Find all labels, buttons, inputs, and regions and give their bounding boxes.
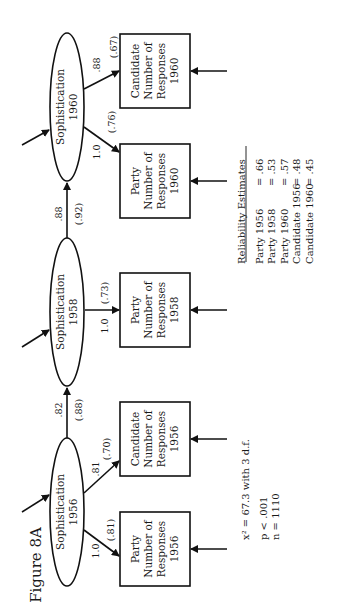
indicator-label-cand-1956: Candidate Number of Responses 1956: [129, 410, 181, 467]
coef-soph1956-soph1958: .82: [53, 402, 64, 417]
p-value-stat: p < .001: [258, 439, 271, 540]
indicator-label-party-1956: Party Number of Responses 1956: [129, 520, 181, 577]
std-soph1960-cand1960: (.67): [108, 36, 119, 59]
std-soph1958-soph1960: (.92): [73, 203, 84, 226]
disturbance-soph1960: [22, 130, 49, 145]
std-soph1956-soph1958: (.88): [73, 399, 84, 422]
coef-soph1960-party1960: 1.0: [91, 144, 102, 159]
reliability-row: Candidate 1960 = .45: [304, 159, 317, 264]
arrow-soph1960-to-cand1960: [84, 71, 119, 89]
std-soph1956-cand1956: (.70): [101, 438, 112, 461]
figure-title: Figure 8A: [27, 527, 45, 603]
disturbance-soph1958: [22, 330, 49, 347]
latent-label-1956: Sophistication 1956: [54, 474, 80, 550]
coef-soph1956-party1956: 1.0: [90, 543, 101, 558]
chi-square-stat: x² = 67.3 with 3 d.f.: [240, 439, 253, 540]
std-soph1956-party1956: (.81): [105, 519, 116, 542]
reliability-heading: Reliability Estimates: [236, 159, 249, 264]
reliability-row: Party 1960 = .57: [279, 159, 292, 264]
reliability-row: Party 1958 = .53: [266, 159, 279, 264]
latent-label-1960: Sophistication 1960: [54, 69, 80, 145]
std-soph1960-party1960: (.76): [106, 111, 117, 134]
disturbance-soph1956: [22, 495, 49, 512]
coef-soph1958-soph1960: .88: [53, 206, 64, 221]
reliability-estimates: Reliability Estimates Party 1956 = .66 P…: [236, 159, 316, 264]
indicator-label-cand-1960: Candidate Number of Responses 1960: [129, 42, 181, 99]
indicator-label-party-1960: Party Number of Responses 1960: [129, 152, 181, 209]
latent-label-1958: Sophistication 1958: [54, 274, 80, 350]
n-stat: n = 1110: [270, 439, 283, 540]
std-soph1958-party1958: (.73): [99, 282, 110, 305]
coef-soph1960-cand1960: .88: [91, 57, 102, 72]
indicator-label-party-1958: Party Number of Responses 1958: [129, 281, 181, 338]
coef-soph1956-cand1956: .81: [90, 461, 101, 476]
reliability-row: Candidate 1956 = .48: [291, 159, 304, 264]
coef-soph1958-party1958: 1.0: [99, 318, 110, 333]
fit-stats: x² = 67.3 with 3 d.f. p < .001 n = 1110: [240, 439, 283, 540]
reliability-row: Party 1956 = .66: [254, 159, 267, 264]
